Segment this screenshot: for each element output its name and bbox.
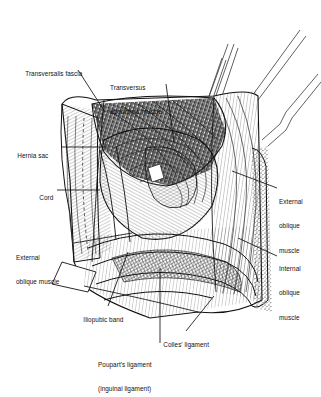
label-transversalis-fascia: Transversalis fascia <box>18 62 82 86</box>
label-internal-oblique-line1: Internal <box>279 265 301 273</box>
label-transversus-abdominis-muscle: Transversus abdominis muscle <box>110 68 162 133</box>
label-internal-oblique-line2: oblique <box>279 289 301 297</box>
label-internal-oblique-line3: muscle <box>279 314 301 322</box>
label-external-oblique-muscle-left: External oblique muscle <box>16 238 59 303</box>
retractor-lower-right-instrument <box>262 74 321 146</box>
label-hernia-sac: Hernia sac <box>10 144 48 168</box>
label-transversalis-fascia-text: Transversalis fascia <box>25 70 82 77</box>
label-external-oblique-left-line2: oblique muscle <box>16 278 59 286</box>
label-hernia-sac-text: Hernia sac <box>17 152 48 159</box>
label-colles-ligament-text: Colles' ligament <box>163 341 209 348</box>
label-external-oblique-left-line1: External <box>16 254 59 262</box>
label-colles-ligament: Colles' ligament <box>156 333 209 357</box>
label-internal-oblique-muscle: Internal oblique muscle <box>279 249 301 338</box>
label-transversus-line1: Transversus <box>110 84 162 92</box>
label-transversus-line2: abdominis muscle <box>110 108 162 116</box>
label-iliopubic-band-text: Iliopubic band <box>83 316 123 323</box>
label-external-oblique-right-line1: External <box>279 198 303 206</box>
label-pouparts-ligament: Poupart's ligament (inguinal ligament) <box>98 345 152 397</box>
label-iliopubic-band: Iliopubic band <box>76 308 123 332</box>
label-pouparts-line2: (inguinal ligament) <box>98 385 152 393</box>
label-cord: Cord <box>32 186 53 210</box>
label-pouparts-line1: Poupart's ligament <box>98 361 152 369</box>
label-cord-text: Cord <box>39 194 53 201</box>
label-external-oblique-right-line2: oblique <box>279 222 303 230</box>
